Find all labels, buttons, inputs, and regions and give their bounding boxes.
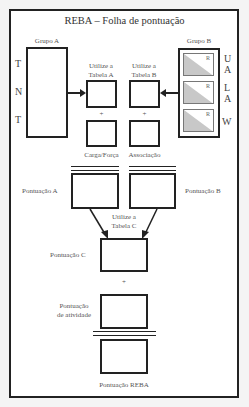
group-b-label: Grupo B	[178, 37, 220, 45]
group-b-letter-u: U	[224, 53, 231, 64]
group-a-letter-neck: N	[15, 86, 22, 97]
plus-sign: +	[86, 110, 117, 118]
activity-label-line1: Pontuação	[52, 302, 96, 310]
arrow-left-icon	[160, 88, 179, 98]
group-b-letter-w: W	[222, 116, 231, 127]
group-a-box	[26, 47, 68, 138]
reba-score-label: Pontuação REBA	[80, 381, 168, 389]
score-c-box	[100, 238, 148, 272]
upper-arm-score-cell: R	[183, 53, 214, 76]
coupling-label: Associação	[121, 151, 168, 159]
activity-label-line2: de atividade	[52, 311, 96, 319]
arrow-right-icon	[68, 88, 88, 98]
group-a-letter-trunk: T	[15, 58, 21, 69]
score-b-label: Pontuação B	[185, 187, 221, 195]
adjustment-label: R	[206, 83, 210, 89]
sum-divider-final	[93, 331, 156, 336]
adjustment-label: R	[206, 55, 210, 61]
group-a-letter-legs: T	[15, 114, 21, 125]
score-a-label: Pontuação A	[22, 187, 58, 195]
activity-score-box	[100, 294, 148, 329]
wrist-score-cell: R	[183, 109, 214, 132]
sum-divider-a	[71, 166, 119, 171]
table-b-score-box	[129, 80, 160, 108]
adjustment-label: R	[206, 111, 210, 117]
sum-divider-b	[129, 166, 176, 171]
group-b-letter-a1: A	[224, 64, 231, 75]
coupling-box	[129, 120, 160, 147]
plus-sign: +	[100, 278, 148, 286]
plus-sign: +	[129, 110, 160, 118]
table-a-line1: Utilize a	[80, 62, 122, 70]
sheet-title: REBA – Folha de pontuação	[0, 15, 249, 26]
table-a-score-box	[86, 80, 117, 108]
reba-score-box	[100, 339, 148, 374]
table-c-line2: Tabela C	[101, 222, 147, 230]
group-a-label: Grupo A	[26, 37, 68, 45]
table-c-line1: Utilize a	[101, 213, 147, 221]
group-b-box: R R R	[178, 48, 220, 138]
table-a-line2: Tabela A	[80, 71, 122, 79]
group-b-letter-a2: A	[224, 93, 231, 104]
group-b-letter-l: L	[224, 82, 230, 93]
load-force-label: Carga/Força	[76, 151, 127, 159]
table-b-line2: Tabela B	[123, 71, 165, 79]
load-force-box	[86, 120, 117, 147]
lower-arm-score-cell: R	[183, 81, 214, 104]
score-c-label: Pontuação C	[50, 251, 86, 259]
score-b-box	[129, 173, 176, 209]
table-b-line1: Utilize a	[123, 62, 165, 70]
score-a-box	[71, 173, 119, 209]
